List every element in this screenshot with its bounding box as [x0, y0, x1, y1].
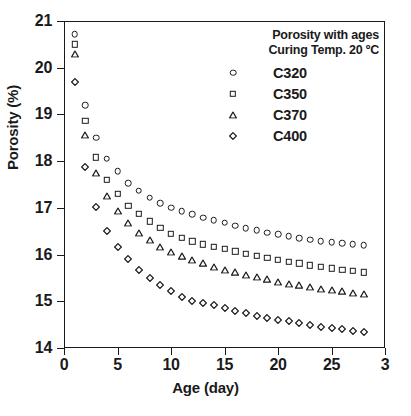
y-tick-19: [57, 114, 64, 115]
data-point-C320-12: [189, 211, 196, 218]
data-point-C320-6: [125, 180, 132, 187]
data-point-C400-27: [349, 327, 357, 335]
data-point-C370-13: [199, 260, 207, 267]
data-point-C350-9: [157, 225, 163, 231]
data-point-square: [230, 90, 236, 96]
data-point-C400-2: [81, 163, 89, 171]
data-point-diamond: [229, 132, 237, 140]
data-point-C320-3: [93, 134, 100, 141]
data-point-C400-5: [114, 243, 122, 251]
y-tick-label-16: 16: [35, 246, 52, 264]
data-point-C400-25: [328, 324, 336, 332]
porosity-vs-age-chart: 141516171819202105101520253 Age (day) Po…: [0, 0, 411, 416]
data-point-C400-6: [124, 255, 132, 263]
y-tick-label-21: 21: [35, 12, 52, 30]
data-point-C320-17: [243, 225, 250, 232]
data-point-C350-25: [328, 265, 334, 271]
data-point-C370-12: [188, 257, 196, 264]
data-point-C400-16: [231, 307, 239, 315]
data-point-C370-17: [242, 271, 250, 278]
data-point-C320-24: [318, 238, 325, 245]
data-point-C320-14: [211, 217, 218, 224]
data-point-C350-24: [318, 264, 324, 270]
data-point-C320-7: [136, 187, 143, 194]
data-point-C320-8: [146, 194, 153, 201]
data-point-C320-18: [253, 227, 260, 234]
data-point-C400-3: [92, 203, 100, 211]
data-point-C350-14: [211, 243, 217, 249]
data-point-C370-6: [124, 220, 132, 227]
legend-label-C350: C350: [259, 86, 307, 102]
data-point-C320-9: [157, 200, 164, 207]
data-point-C370-8: [146, 236, 154, 243]
data-point-C370-21: [285, 280, 293, 287]
data-point-C350-27: [350, 268, 356, 274]
data-point-C350-18: [253, 252, 259, 258]
legend: Porosity with ages Curing Temp. 20 ºC C3…: [207, 28, 379, 146]
legend-label-C370: C370: [259, 107, 307, 123]
data-point-C350-23: [307, 262, 313, 268]
data-point-C350-5: [114, 191, 120, 197]
data-point-C320-27: [350, 241, 357, 248]
legend-marker-diamond-icon: [207, 131, 259, 140]
data-point-C350-3: [93, 154, 99, 160]
data-point-C320-5: [114, 168, 121, 175]
x-tick-label-25: 25: [323, 356, 340, 374]
data-point-C350-1: [71, 41, 77, 47]
data-point-C350-11: [178, 235, 184, 241]
data-point-C320-20: [275, 231, 282, 238]
data-point-C400-26: [338, 325, 346, 333]
y-tick-18: [57, 161, 64, 162]
data-point-C320-22: [296, 235, 303, 242]
data-point-C320-16: [232, 222, 239, 229]
data-point-C400-14: [210, 301, 218, 309]
data-point-C400-17: [242, 309, 250, 317]
data-point-C350-10: [168, 230, 174, 236]
data-point-C370-10: [167, 249, 175, 256]
data-point-C350-17: [243, 250, 249, 256]
data-point-C370-1: [71, 50, 79, 57]
data-point-C400-4: [103, 227, 111, 235]
data-point-C400-9: [156, 281, 164, 289]
data-point-C350-19: [264, 255, 270, 261]
x-tick-5: [118, 348, 119, 355]
x-tick-25: [332, 348, 333, 355]
y-tick-label-17: 17: [35, 199, 52, 217]
y-tick-label-20: 20: [35, 59, 52, 77]
data-point-C370-22: [295, 282, 303, 289]
data-point-C400-11: [178, 293, 186, 301]
data-point-C370-27: [349, 289, 357, 296]
data-point-C350-21: [285, 258, 291, 264]
legend-marker-triangle-icon: [207, 110, 259, 119]
data-point-C320-28: [360, 242, 367, 249]
data-point-C370-24: [317, 285, 325, 292]
y-tick-20: [57, 68, 64, 69]
data-point-C320-15: [221, 220, 228, 227]
data-point-C400-10: [167, 287, 175, 295]
data-point-C370-3: [92, 169, 100, 176]
x-tick-label-3: 3: [381, 356, 390, 374]
data-point-C350-12: [189, 238, 195, 244]
data-point-C320-13: [200, 214, 207, 221]
data-point-C400-24: [317, 323, 325, 331]
y-tick-14: [57, 348, 64, 349]
data-point-C350-13: [200, 241, 206, 247]
data-point-C400-1: [71, 78, 79, 86]
data-point-C370-5: [114, 208, 122, 215]
data-point-C320-26: [339, 240, 346, 247]
legend-symbol-box: [229, 68, 238, 77]
data-point-C320-19: [264, 229, 271, 236]
legend-symbol-box: [229, 89, 238, 98]
data-point-C320-4: [104, 156, 111, 163]
legend-marker-circle-icon: [207, 68, 259, 77]
x-tick-0: [64, 348, 65, 355]
legend-symbol-box: [229, 131, 238, 140]
data-point-C350-22: [296, 260, 302, 266]
data-point-C320-2: [82, 102, 89, 109]
data-point-C350-2: [82, 117, 88, 123]
data-point-C350-26: [339, 266, 345, 272]
data-point-C400-15: [221, 304, 229, 312]
data-point-C350-6: [125, 202, 131, 208]
data-point-C400-13: [199, 299, 207, 307]
data-point-C370-14: [210, 263, 218, 270]
